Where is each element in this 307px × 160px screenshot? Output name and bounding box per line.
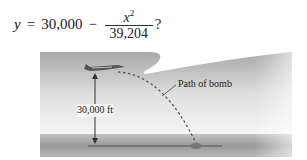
height-label: 30,000 ft	[77, 104, 113, 115]
bomb-impact-icon	[190, 143, 202, 149]
path-label: Path of bomb	[178, 78, 232, 89]
bomb-diagram	[0, 0, 307, 160]
